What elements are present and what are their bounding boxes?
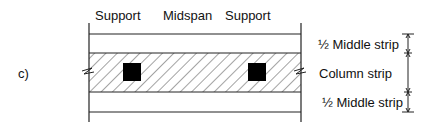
label-half-middle-strip-top: ½ Middle strip — [318, 38, 399, 51]
column-strip-band — [89, 53, 301, 92]
label-support-right: Support — [225, 9, 271, 22]
panel-label: c) — [18, 67, 29, 80]
label-midspan: Midspan — [163, 9, 212, 22]
column-left — [123, 63, 141, 81]
strip-dimension-line — [402, 34, 414, 112]
label-column-strip: Column strip — [319, 67, 392, 80]
label-support-left: Support — [95, 9, 141, 22]
label-half-middle-strip-bottom: ½ Middle strip — [322, 96, 403, 109]
column-right — [248, 63, 266, 81]
